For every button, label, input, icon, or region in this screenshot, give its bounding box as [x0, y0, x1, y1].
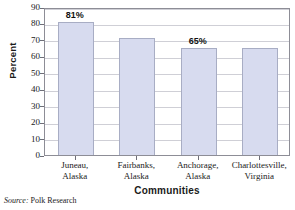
y-tick-label: 70 — [20, 36, 40, 45]
x-category-label: Fairbanks,Alaska — [102, 160, 172, 182]
y-tick-label: 0 — [20, 151, 40, 160]
y-tick-label: 30 — [20, 102, 40, 111]
x-axis-category-labels: Juneau,AlaskaFairbanks,AlaskaAnchorage,A… — [44, 160, 290, 186]
source-note: Source: Polk Research — [4, 196, 77, 205]
y-tick-mark — [40, 139, 44, 140]
y-tick-mark — [40, 24, 44, 25]
x-category-label: Juneau,Alaska — [40, 160, 110, 182]
y-tick-mark — [40, 40, 44, 41]
y-tick-mark — [40, 123, 44, 124]
source-text: Polk Research — [31, 196, 77, 205]
bar-chart-figure: Percent 0102030405060708090 81%65% Junea… — [0, 0, 294, 210]
y-tick-label: 60 — [20, 52, 40, 61]
y-tick-label: 10 — [20, 135, 40, 144]
x-category-label-line: Alaska — [102, 171, 172, 182]
y-tick-mark — [40, 106, 44, 107]
x-category-label-line: Virginia — [225, 171, 295, 182]
x-category-label-line: Alaska — [163, 171, 233, 182]
y-axis-tick-labels: 0102030405060708090 — [16, 0, 40, 210]
y-tick-mark — [40, 73, 44, 74]
y-tick-label: 80 — [20, 19, 40, 28]
y-tick-mark — [40, 156, 44, 157]
y-tick-label: 90 — [20, 3, 40, 12]
y-tick-mark — [40, 90, 44, 91]
x-axis-title: Communities — [44, 185, 290, 196]
x-category-label-line: Alaska — [40, 171, 110, 182]
y-tick-label: 50 — [20, 69, 40, 78]
x-category-label-line: Anchorage, — [163, 160, 233, 171]
x-category-label-line: Fairbanks, — [102, 160, 172, 171]
y-tick-mark — [40, 57, 44, 58]
source-label: Source: — [4, 196, 29, 205]
x-category-label: Anchorage,Alaska — [163, 160, 233, 182]
x-category-label: Charlottesville,Virginia — [225, 160, 295, 182]
y-tick-label: 40 — [20, 85, 40, 94]
y-tick-label: 20 — [20, 118, 40, 127]
x-category-label-line: Charlottesville, — [225, 160, 295, 171]
y-tick-mark — [40, 8, 44, 9]
x-category-label-line: Juneau, — [40, 160, 110, 171]
